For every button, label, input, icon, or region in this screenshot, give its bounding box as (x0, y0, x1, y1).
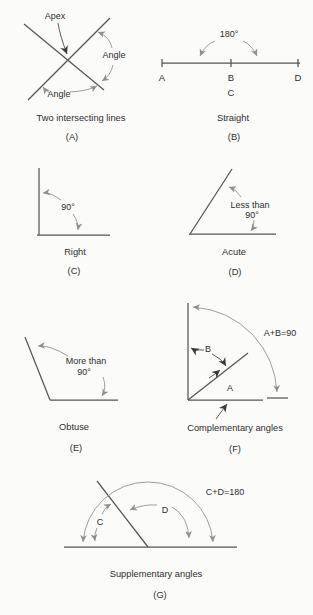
angle-d-arc-right (172, 507, 189, 538)
complementary-big-arc-lower (253, 335, 277, 392)
panel-e-caption: Obtuse (59, 422, 89, 432)
acute-slant-line (190, 169, 232, 234)
angle-arc-right-upper (98, 32, 112, 48)
panel-f: B A A+B=90 Complementary angles (F) (187, 303, 296, 454)
right-arc-upper (43, 193, 61, 200)
angle-bottom-label: Angle (47, 89, 70, 99)
less-than-90-label: 90° (245, 210, 259, 220)
angle-arc-right-lower (102, 65, 113, 81)
degrees-180-label: 180° (220, 29, 239, 39)
acute-arc-lower (251, 220, 254, 231)
panel-d: Less than 90° Acute (D) (189, 169, 276, 277)
panel-b: 180° A B D C Straight (B) (159, 29, 302, 142)
panel-e-tag: (E) (70, 443, 82, 453)
straight-arc-right (243, 41, 257, 56)
apex-label: Apex (45, 11, 66, 21)
intersecting-line-1 (24, 24, 104, 90)
less-than-label: Less than (230, 200, 269, 210)
panel-a-caption: Two intersecting lines (37, 113, 126, 123)
panel-b-tag: (B) (228, 132, 240, 142)
angle-b-arrow-left (191, 348, 204, 350)
supplementary-slant-line (97, 481, 148, 547)
panel-g-caption: Supplementary angles (110, 569, 203, 579)
angle-b-label: B (205, 344, 211, 354)
angle-right-label: Angle (102, 50, 125, 60)
degrees-90-label: 90° (61, 202, 75, 212)
more-than-90-label: 90° (77, 367, 91, 377)
complementary-diagonal-line (188, 353, 248, 400)
angle-c-arc-lower (95, 528, 97, 541)
diagram-canvas: Apex Angle Angle Two intersecting lines … (0, 0, 313, 615)
more-than-label: More than (66, 356, 107, 366)
obtuse-arc-upper (38, 346, 68, 356)
angle-arc-bottom-right (70, 86, 97, 92)
point-a-label: A (159, 72, 166, 83)
panel-g: C D C+D=180 Supplementary angles (G) (64, 481, 244, 600)
panel-g-tag: (G) (153, 590, 166, 600)
straight-arc-left (200, 41, 215, 56)
panel-d-tag: (D) (229, 267, 242, 277)
angle-d-arc-left (130, 505, 157, 510)
point-d-label: D (295, 72, 302, 83)
panel-a: Apex Angle Angle Two intersecting lines … (24, 11, 126, 142)
point-b-label: B (228, 72, 234, 83)
panel-d-caption: Acute (222, 247, 246, 257)
point-c-label: C (228, 87, 235, 98)
complementary-equation-label: A+B=90 (264, 328, 297, 338)
panel-f-caption: Complementary angles (187, 423, 283, 433)
panel-b-caption: Straight (217, 113, 249, 123)
supplementary-equation-label: C+D=180 (206, 487, 245, 497)
apex-leader-arrow (58, 23, 67, 54)
supplementary-outer-arc-left (83, 482, 148, 542)
supplementary-outer-arc-right (148, 482, 213, 542)
angle-c-label: C (97, 517, 104, 527)
intersecting-line-2 (28, 18, 110, 100)
panel-f-tag: (F) (229, 444, 241, 454)
angle-b-arrow-right (212, 354, 226, 366)
angle-c-arc-upper (102, 504, 111, 514)
panel-c-caption: Right (64, 247, 86, 257)
caption-pointer-arrow (216, 404, 227, 419)
angle-a-label: A (227, 383, 233, 393)
acute-arc-upper (229, 187, 241, 197)
panel-c: 90° Right (C) (37, 168, 110, 276)
panel-a-tag: (A) (66, 132, 78, 142)
complementary-big-arc-upper (193, 307, 253, 335)
obtuse-arc-lower (102, 377, 105, 396)
angles-diagram: Apex Angle Angle Two intersecting lines … (0, 0, 313, 615)
panel-c-tag: (C) (68, 266, 81, 276)
angle-d-label: D (162, 505, 169, 515)
right-arc-lower (73, 214, 78, 230)
panel-e: More than 90° Obtuse (E) (25, 337, 118, 453)
